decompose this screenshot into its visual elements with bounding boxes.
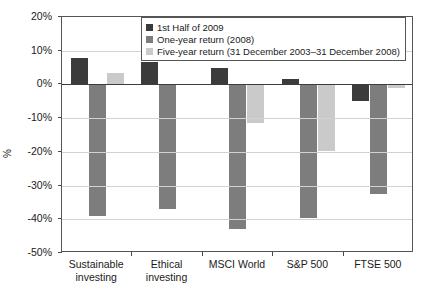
x-tick-mark	[131, 252, 132, 256]
legend-swatch-icon	[146, 48, 153, 55]
bar-group	[62, 17, 132, 251]
x-axis-label: Ethicalinvesting	[131, 258, 201, 283]
x-axis-label-line: investing	[61, 271, 131, 284]
chart-legend: 1st Half of 2009 One-year return (2008) …	[141, 17, 406, 61]
bar	[352, 84, 369, 101]
x-axis-label: FTSE 500	[343, 258, 413, 271]
bar-chart: % 20%10%0%-10%-20%-30%-40%-50% 1st Half …	[0, 0, 424, 299]
y-tick-label: -40%	[6, 213, 52, 223]
legend-label: One-year return (2008)	[157, 34, 254, 45]
gridline	[62, 152, 412, 153]
y-tick-label: -30%	[6, 180, 52, 190]
legend-label: Five-year return (31 December 2003–31 De…	[157, 46, 400, 57]
bar	[229, 84, 246, 228]
y-tick-label: 20%	[6, 11, 52, 21]
gridline	[62, 118, 412, 119]
x-axis-label-line: S&P 500	[272, 258, 342, 271]
y-tick-label: 10%	[6, 45, 52, 55]
legend-swatch-icon	[146, 24, 153, 31]
x-axis-label-line: FTSE 500	[343, 258, 413, 271]
bar	[370, 84, 387, 193]
legend-swatch-icon	[146, 36, 153, 43]
legend-item-1: One-year return (2008)	[146, 33, 400, 45]
y-tick-label: 0%	[6, 78, 52, 88]
y-tick-label: -10%	[6, 112, 52, 122]
gridline	[62, 186, 412, 187]
x-tick-mark	[202, 252, 203, 256]
y-tick-mark	[58, 252, 62, 253]
legend-label: 1st Half of 2009	[157, 22, 224, 33]
legend-item-2: Five-year return (31 December 2003–31 De…	[146, 45, 400, 57]
y-axis-ticks: 20%10%0%-10%-20%-30%-40%-50%	[0, 0, 52, 299]
legend-item-0: 1st Half of 2009	[146, 21, 400, 33]
x-tick-mark	[343, 252, 344, 256]
y-tick-label: -50%	[6, 247, 52, 257]
bar	[89, 84, 106, 215]
x-tick-mark	[272, 252, 273, 256]
gridline	[62, 219, 412, 220]
bar	[211, 68, 228, 84]
x-axis-label-line: investing	[131, 271, 201, 284]
y-tick-label: -20%	[6, 146, 52, 156]
bar	[107, 73, 124, 84]
bar	[141, 62, 158, 85]
x-axis-label-line: Sustainable	[61, 258, 131, 271]
zero-line	[62, 84, 412, 85]
x-axis-label: S&P 500	[272, 258, 342, 271]
x-axis-label-line: MSCI World	[202, 258, 272, 271]
x-axis-label: Sustainableinvesting	[61, 258, 131, 283]
x-axis-label-line: Ethical	[131, 258, 201, 271]
x-axis-label: MSCI World	[202, 258, 272, 271]
bar	[159, 84, 176, 208]
bar	[247, 84, 264, 122]
bar	[71, 58, 88, 84]
